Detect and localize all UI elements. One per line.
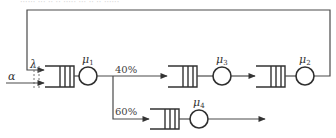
server-mu2 (296, 67, 314, 85)
input-alpha-label: α (8, 70, 16, 83)
queue-3 (168, 66, 197, 87)
queue-2 (256, 66, 285, 87)
queue-4 (150, 109, 179, 129)
server-mu2-label: μ2 (299, 53, 311, 67)
branch-40-label: 40% (115, 64, 137, 75)
queueing-network-diagram: ······ ··· ·· ·· ····· ··· ·· ·· ······ … (0, 0, 336, 138)
server-mu1-label: μ1 (82, 53, 94, 67)
queue-1 (45, 66, 74, 87)
server-mu3 (213, 67, 231, 85)
server-mu1 (79, 67, 97, 85)
top-cutoff-text: ······ ··· ·· ·· ····· ··· ·· ·· ······ (20, 0, 119, 7)
server-mu3-label: μ3 (216, 53, 228, 67)
branch-60-label: 60% (115, 106, 137, 117)
feedback-lambda-label: λ (29, 58, 37, 71)
server-mu4 (190, 110, 208, 128)
server-mu4-label: μ4 (193, 96, 205, 110)
